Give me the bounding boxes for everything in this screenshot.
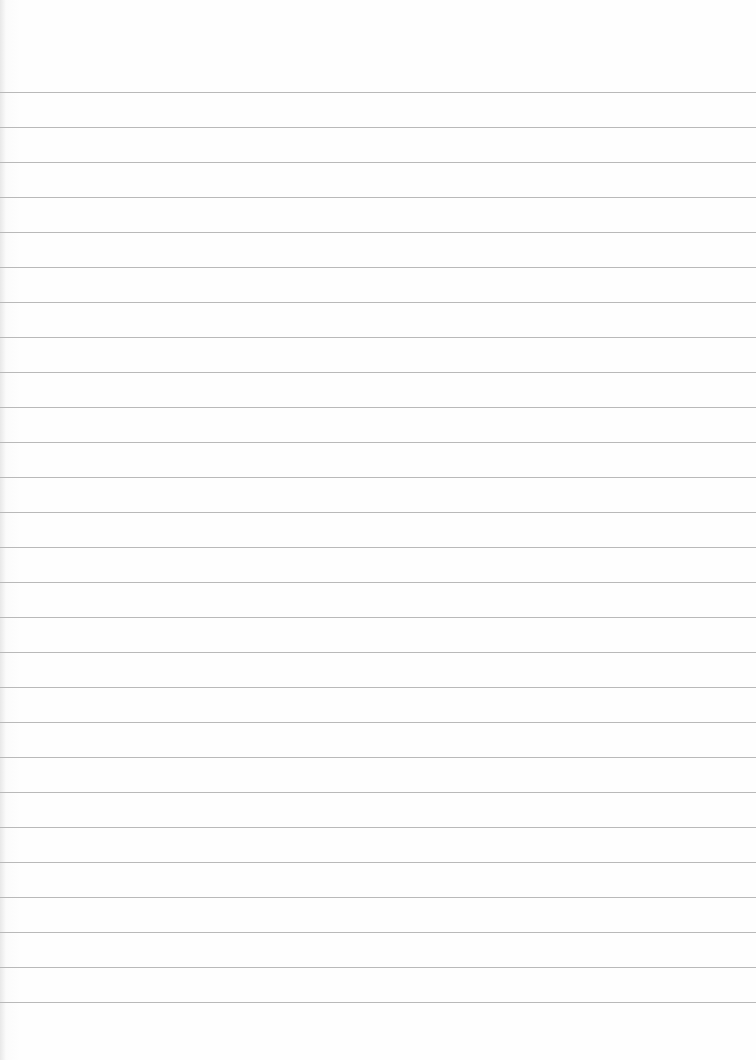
- ruled-line: [0, 127, 756, 128]
- ruled-line: [0, 267, 756, 268]
- ruled-line: [0, 197, 756, 198]
- ruled-line: [0, 687, 756, 688]
- ruled-line: [0, 792, 756, 793]
- ruled-line: [0, 897, 756, 898]
- lined-paper-sheet: [0, 0, 756, 1060]
- ruled-line: [0, 407, 756, 408]
- ruled-line: [0, 967, 756, 968]
- ruled-line: [0, 827, 756, 828]
- ruled-line: [0, 162, 756, 163]
- ruled-line: [0, 862, 756, 863]
- ruled-line: [0, 1002, 756, 1003]
- ruled-line: [0, 372, 756, 373]
- ruled-line: [0, 932, 756, 933]
- ruled-line: [0, 582, 756, 583]
- ruled-line: [0, 92, 756, 93]
- ruled-line: [0, 757, 756, 758]
- ruled-line: [0, 652, 756, 653]
- ruled-line: [0, 477, 756, 478]
- ruled-line: [0, 547, 756, 548]
- ruled-line: [0, 302, 756, 303]
- ruled-line: [0, 512, 756, 513]
- ruled-line: [0, 232, 756, 233]
- ruled-line: [0, 617, 756, 618]
- ruled-line: [0, 722, 756, 723]
- ruled-line: [0, 337, 756, 338]
- ruled-line: [0, 442, 756, 443]
